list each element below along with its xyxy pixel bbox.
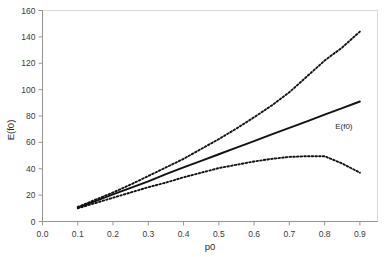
y-tick-label: 80: [26, 111, 36, 121]
y-tick-label: 100: [21, 85, 35, 95]
chart-container: 020406080100120140160 0.00.10.20.30.40.5…: [0, 0, 390, 257]
y-tick-label: 40: [26, 164, 36, 174]
y-tick-label: 60: [26, 137, 36, 147]
y-axis-title: E(f0): [5, 120, 16, 141]
x-axis-title: p0: [205, 241, 216, 252]
series-label-annotation: E(f0): [335, 122, 353, 131]
x-tick-label: 0.1: [72, 229, 84, 239]
series-annotations: E(f0): [335, 122, 353, 131]
y-tick-label: 120: [21, 58, 35, 68]
y-tick-label: 160: [21, 6, 35, 16]
x-tick-label: 0.0: [37, 229, 49, 239]
x-tick-label: 0.5: [213, 229, 225, 239]
x-tick-label: 0.8: [319, 229, 331, 239]
chart-background: [0, 0, 390, 257]
x-tick-label: 0.4: [178, 229, 190, 239]
x-tick-label: 0.9: [354, 229, 366, 239]
y-tick-label: 0: [31, 217, 36, 227]
y-tick-label: 140: [21, 32, 35, 42]
x-tick-label: 0.6: [248, 229, 260, 239]
expected-value-line-chart: 020406080100120140160 0.00.10.20.30.40.5…: [0, 0, 390, 257]
x-tick-label: 0.3: [142, 229, 154, 239]
x-tick-label: 0.7: [283, 229, 295, 239]
y-tick-label: 20: [26, 190, 36, 200]
x-tick-label: 0.2: [107, 229, 119, 239]
